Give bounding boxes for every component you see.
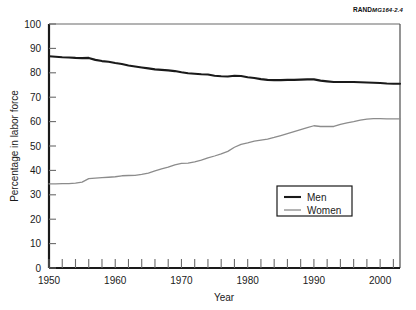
x-tick-label: 1980 [237, 275, 260, 286]
x-tick-label: 2000 [369, 275, 392, 286]
y-tick-label: 10 [30, 238, 42, 249]
y-tick-label: 40 [30, 165, 42, 176]
x-axis-tick-labels: 195019601970198019902000 [38, 275, 392, 286]
x-axis-title: Year [214, 292, 235, 303]
y-tick-label: 60 [30, 116, 42, 127]
y-axis-tick-labels: 0102030405060708090100 [24, 19, 41, 274]
source-brand: RAND [353, 6, 372, 13]
x-tick-label: 1970 [170, 275, 193, 286]
figure-container: RANDMG164-2.4 0102030405060708090100 195… [0, 0, 416, 310]
source-note: RANDMG164-2.4 [353, 6, 403, 13]
x-tick-label: 1960 [104, 275, 127, 286]
y-tick-label: 20 [30, 214, 42, 225]
y-tick-label: 90 [30, 43, 42, 54]
y-tick-label: 100 [24, 19, 41, 30]
legend-label-women: Women [307, 205, 341, 216]
y-tick-label: 70 [30, 92, 42, 103]
y-tick-label: 30 [30, 189, 42, 200]
x-tick-label: 1990 [303, 275, 326, 286]
legend-label-men: Men [307, 192, 326, 203]
y-tick-label: 80 [30, 67, 42, 78]
source-number: MG164-2.4 [372, 7, 403, 13]
y-tick-label: 0 [35, 263, 41, 274]
y-tick-label: 50 [30, 141, 42, 152]
line-chart: 0102030405060708090100 19501960197019801… [0, 0, 416, 310]
y-axis-title: Percentage in labor force [9, 90, 20, 202]
x-tick-label: 1950 [38, 275, 61, 286]
chart-legend: MenWomen [277, 186, 352, 216]
